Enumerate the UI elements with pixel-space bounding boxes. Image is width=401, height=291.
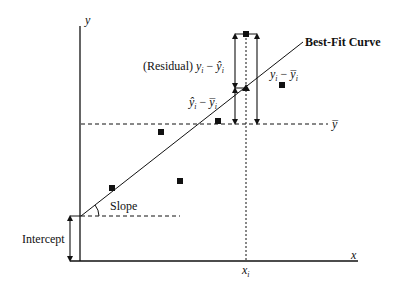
best-fit-curve-label: Best-Fit Curve	[305, 35, 381, 49]
data-point	[177, 178, 183, 184]
regression-diagram: y x xi Best-Fit Curve (Residual) yi − ŷi…	[0, 0, 401, 291]
ybar-label: y̅	[331, 117, 338, 131]
data-point	[158, 129, 164, 135]
data-point-yi	[243, 31, 249, 37]
data-point	[215, 118, 221, 124]
total-deviation-label: yi − y̅i	[269, 67, 298, 83]
intercept-label: Intercept	[22, 232, 65, 246]
xi-label: xi	[241, 263, 250, 279]
explained-deviation-label: ŷi − y̅i	[188, 95, 217, 111]
x-axis-label: x	[350, 248, 357, 262]
data-point	[109, 185, 115, 191]
slope-label: Slope	[110, 199, 137, 213]
residual-label: (Residual) yi − ŷi	[143, 59, 224, 75]
slope-angle-arc	[95, 205, 99, 216]
data-point	[279, 82, 285, 88]
y-axis-label: y	[84, 13, 91, 27]
